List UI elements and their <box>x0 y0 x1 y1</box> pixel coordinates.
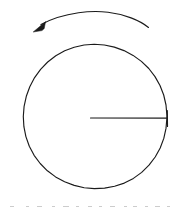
caption-fragment <box>124 206 127 207</box>
caption-fragment <box>155 206 160 207</box>
caption-fragment <box>145 206 148 207</box>
caption-fragment <box>76 206 79 207</box>
caption-fragment <box>37 206 42 207</box>
figure-canvas <box>0 0 183 210</box>
caption-fragment <box>88 206 92 207</box>
caption-fragment <box>99 206 102 207</box>
caption-fragment <box>52 206 55 207</box>
caption-fragment <box>133 206 137 207</box>
caption-fragment <box>10 206 14 207</box>
caption-fragment <box>63 206 69 207</box>
caption-fragment-row <box>0 203 183 210</box>
rotation-arrow-group <box>33 12 148 32</box>
disk-circle-group <box>23 44 167 188</box>
rotation-arrow-arc <box>41 12 149 28</box>
rotation-arrow-head <box>33 22 45 32</box>
caption-fragment <box>110 206 115 207</box>
rotating-disk-diagram <box>0 0 183 210</box>
disk-circle <box>23 44 167 188</box>
radius-line-group <box>91 111 168 127</box>
caption-fragment <box>167 206 170 207</box>
caption-fragment <box>26 206 29 207</box>
